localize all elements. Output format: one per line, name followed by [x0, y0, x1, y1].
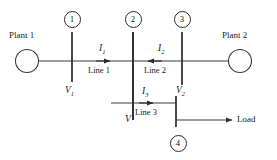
plant-2-generator-symbol: [229, 50, 252, 73]
bus-number-4-label: 4: [176, 139, 180, 148]
bus-number-2[interactable]: 2: [125, 11, 142, 28]
line-1-label: Line 1: [88, 66, 110, 75]
line-3-current-subscript: 3: [145, 91, 148, 98]
line-2-current-label: I2: [158, 44, 164, 55]
bus-number-2-label: 2: [131, 15, 135, 24]
line-3-current-label: I3: [142, 87, 148, 98]
bus-number-3-label: 3: [180, 15, 184, 24]
voltage-bus2-label: V: [125, 115, 131, 126]
plant-1-generator-symbol: [16, 50, 39, 73]
plant-2-label: Plant 2: [222, 31, 247, 40]
bus-number-1[interactable]: 1: [64, 11, 81, 28]
line-3-label: Line 3: [135, 108, 157, 117]
line-2-label: Line 2: [144, 66, 166, 75]
line-2-current-subscript: 2: [161, 48, 164, 55]
bus-number-4[interactable]: 4: [170, 135, 187, 152]
bus-number-1-label: 1: [70, 15, 74, 24]
voltage-2-subscript: 2: [182, 90, 185, 97]
voltage-2-label: V2: [176, 86, 185, 97]
voltage-bus2-symbol: V: [125, 114, 131, 124]
bus-number-3[interactable]: 3: [174, 11, 191, 28]
voltage-1-label: V1: [65, 86, 74, 97]
line-1-current-subscript: 1: [102, 48, 105, 55]
plant-1-label: Plant 1: [9, 31, 34, 40]
line-1-current-label: I1: [99, 44, 105, 55]
load-label: Load: [237, 115, 256, 124]
voltage-1-subscript: 1: [71, 90, 74, 97]
one-line-diagram: Plant 1 Plant 2 1 2 3 4 I1 Line 1 I2 Lin…: [0, 0, 277, 160]
